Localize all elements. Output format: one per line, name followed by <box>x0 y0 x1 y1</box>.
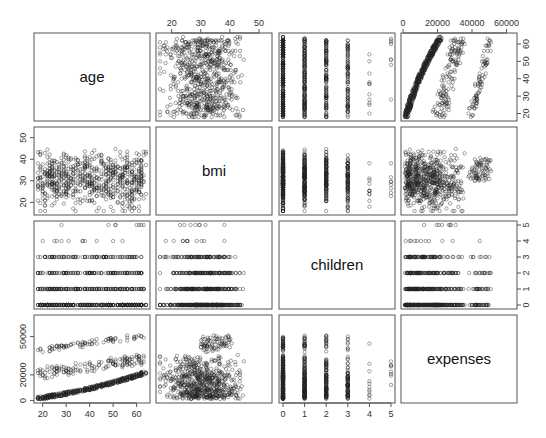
panel-children-vs-expenses <box>401 221 517 309</box>
tick-label: 0 <box>18 398 28 403</box>
tick-label: 20 <box>167 18 177 28</box>
tick-label: 60 <box>132 409 142 419</box>
variable-label-age: age <box>79 68 104 85</box>
axis-children-bottom: 012345 <box>280 403 393 419</box>
tick-label: 1 <box>302 409 307 419</box>
tick-label: 0 <box>521 302 531 307</box>
variable-label-children: children <box>311 256 364 273</box>
panel-frame <box>156 221 272 309</box>
tick-label: 60 <box>521 39 531 49</box>
axis-age-right: 2030405060 <box>517 39 531 119</box>
panel-age-vs-expenses <box>401 33 517 121</box>
tick-label: 30 <box>521 91 531 101</box>
panel-bmi-vs-expenses <box>401 127 517 215</box>
panel-expenses-vs-children <box>279 315 395 403</box>
tick-label: 1 <box>521 286 531 291</box>
panel-expenses-vs-expenses: expenses <box>401 315 517 403</box>
tick-label: 50 <box>521 56 531 66</box>
panel-age-vs-age: age <box>34 33 150 121</box>
tick-label: 30 <box>18 176 28 186</box>
tick-label: 60000 <box>494 18 519 28</box>
tick-label: 30 <box>61 409 71 419</box>
tick-label: 0 <box>401 18 406 28</box>
panel-frame <box>401 221 517 309</box>
tick-label: 5 <box>521 222 531 227</box>
axis-age-bottom: 2030405060 <box>38 403 142 419</box>
tick-label: 2 <box>521 270 531 275</box>
tick-label: 0 <box>280 409 285 419</box>
panel-bmi-vs-bmi: bmi <box>156 127 272 215</box>
tick-label: 50 <box>18 133 28 143</box>
tick-label: 5 <box>388 409 393 419</box>
tick-label: 50 <box>108 409 118 419</box>
tick-label: 40 <box>85 409 95 419</box>
tick-label: 40 <box>225 18 235 28</box>
panel-frame <box>279 315 395 403</box>
tick-label: 4 <box>521 238 531 243</box>
axis-bmi-top: 20304050 <box>167 18 264 33</box>
panel-frame <box>279 33 395 121</box>
axis-children-right: 012345 <box>517 222 531 307</box>
panel-age-vs-children <box>279 33 395 121</box>
variable-label-bmi: bmi <box>202 162 226 179</box>
panel-frame <box>34 221 150 309</box>
axis-expenses-top: 0200004000060000 <box>401 18 519 33</box>
panel-children-vs-bmi <box>156 221 272 309</box>
tick-label: 20000 <box>425 18 450 28</box>
panel-age-vs-bmi <box>156 33 272 121</box>
tick-label: 50000 <box>18 324 28 349</box>
tick-label: 40 <box>521 74 531 84</box>
panel-frame <box>279 127 395 215</box>
scatterplot-matrix: agebmichildrenexpenses203040506001234520… <box>0 0 546 438</box>
tick-label: 3 <box>345 409 350 419</box>
tick-label: 30 <box>196 18 206 28</box>
tick-label: 50 <box>254 18 264 28</box>
variable-label-expenses: expenses <box>427 350 491 367</box>
tick-label: 4 <box>367 409 372 419</box>
tick-label: 3 <box>521 254 531 259</box>
tick-label: 20 <box>38 409 48 419</box>
tick-label: 40 <box>18 154 28 164</box>
axis-expenses-left: 02000050000 <box>18 324 34 403</box>
axis-bmi-left: 20304050 <box>18 133 34 208</box>
panel-expenses-vs-bmi <box>156 315 272 403</box>
panel-expenses-vs-age <box>34 315 150 403</box>
tick-label: 20000 <box>18 362 28 387</box>
tick-label: 2 <box>324 409 329 419</box>
tick-label: 20 <box>521 109 531 119</box>
panel-bmi-vs-age <box>34 127 150 215</box>
panel-children-vs-age <box>34 221 150 309</box>
panel-children-vs-children: children <box>279 221 395 309</box>
tick-label: 20 <box>18 197 28 207</box>
panel-bmi-vs-children <box>279 127 395 215</box>
tick-label: 40000 <box>460 18 485 28</box>
